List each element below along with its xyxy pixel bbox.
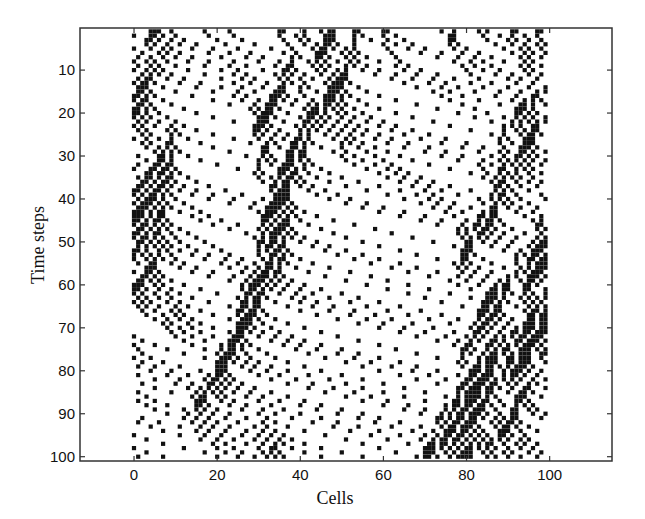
data-point <box>535 330 539 334</box>
data-point <box>473 90 477 94</box>
data-point <box>423 455 427 459</box>
data-point <box>140 85 144 89</box>
data-point <box>494 296 498 300</box>
data-point <box>477 29 481 33</box>
data-point <box>232 446 236 450</box>
data-point <box>523 253 527 257</box>
data-point <box>502 373 506 377</box>
data-point <box>531 81 535 85</box>
data-point <box>481 326 485 330</box>
data-point <box>282 223 286 227</box>
data-point <box>415 193 419 197</box>
data-point <box>485 330 489 334</box>
data-point <box>244 317 248 321</box>
data-point <box>169 296 173 300</box>
data-point <box>186 386 190 390</box>
data-point <box>539 29 543 33</box>
data-point <box>265 296 269 300</box>
data-point <box>469 339 473 343</box>
data-point <box>157 163 161 167</box>
data-point <box>132 47 136 51</box>
data-point <box>485 296 489 300</box>
data-point <box>153 317 157 321</box>
data-point <box>477 313 481 317</box>
data-point <box>531 128 535 132</box>
data-point <box>211 313 215 317</box>
data-point <box>444 407 448 411</box>
data-point <box>211 425 215 429</box>
data-point <box>144 218 148 222</box>
data-point <box>527 283 531 287</box>
data-point <box>144 81 148 85</box>
data-point <box>481 450 485 454</box>
data-point <box>157 279 161 283</box>
data-point <box>506 279 510 283</box>
x-tick-label: 80 <box>458 466 475 483</box>
data-point <box>140 184 144 188</box>
data-point <box>307 115 311 119</box>
data-point <box>144 257 148 261</box>
data-point <box>182 313 186 317</box>
data-point <box>502 175 506 179</box>
data-point <box>527 313 531 317</box>
data-point <box>481 382 485 386</box>
data-point <box>223 360 227 364</box>
data-point <box>273 64 277 68</box>
data-point <box>136 214 140 218</box>
data-point <box>406 283 410 287</box>
data-point <box>232 334 236 338</box>
data-point <box>315 90 319 94</box>
data-point <box>448 90 452 94</box>
data-point <box>157 214 161 218</box>
data-point <box>539 279 543 283</box>
data-point <box>273 115 277 119</box>
data-point <box>174 167 178 171</box>
data-point <box>361 141 365 145</box>
data-point <box>477 433 481 437</box>
data-point <box>523 270 527 274</box>
data-point <box>344 137 348 141</box>
data-point <box>182 124 186 128</box>
data-point <box>153 42 157 46</box>
data-point <box>290 55 294 59</box>
data-point <box>253 425 257 429</box>
data-point <box>510 141 514 145</box>
data-point <box>410 42 414 46</box>
data-point <box>469 425 473 429</box>
data-point <box>502 163 506 167</box>
data-point <box>228 339 232 343</box>
data-point <box>257 317 261 321</box>
data-point <box>523 98 527 102</box>
data-point <box>140 132 144 136</box>
data-point <box>157 188 161 192</box>
data-point <box>539 416 543 420</box>
data-point <box>377 369 381 373</box>
data-point <box>140 352 144 356</box>
data-point <box>398 420 402 424</box>
data-point <box>469 206 473 210</box>
data-point <box>240 407 244 411</box>
data-point <box>290 102 294 106</box>
data-point <box>514 407 518 411</box>
data-point <box>514 416 518 420</box>
data-point <box>410 236 414 240</box>
data-point <box>494 214 498 218</box>
data-point <box>269 98 273 102</box>
data-point <box>277 248 281 252</box>
data-point <box>464 450 468 454</box>
data-point <box>257 240 261 244</box>
data-point <box>523 356 527 360</box>
data-point <box>498 137 502 141</box>
data-point <box>485 399 489 403</box>
data-point <box>315 55 319 59</box>
data-point <box>302 145 306 149</box>
data-point <box>223 429 227 433</box>
data-point <box>253 42 257 46</box>
data-point <box>236 90 240 94</box>
data-point <box>519 334 523 338</box>
data-point <box>253 296 257 300</box>
data-point <box>427 373 431 377</box>
data-point <box>327 64 331 68</box>
data-point <box>460 64 464 68</box>
data-point <box>286 283 290 287</box>
